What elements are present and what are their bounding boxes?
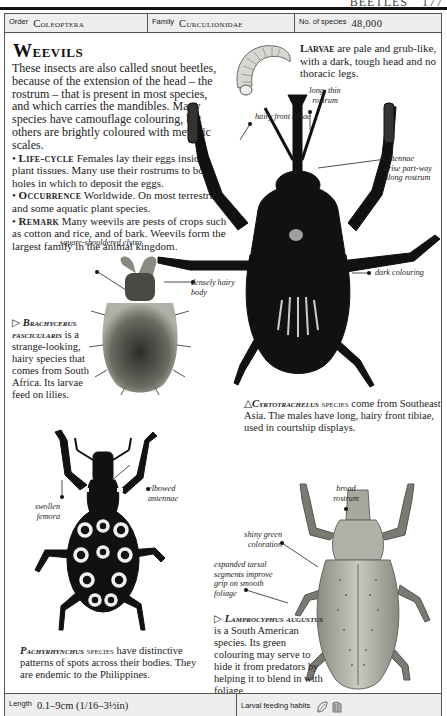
pointer-dot (344, 507, 348, 511)
larval-feeding-cell: Larval feeding habits (237, 694, 343, 716)
label-broad-rostrum: broad rostrum (330, 484, 362, 503)
species-name: Lamprocyphus augustus (225, 613, 324, 624)
lamprocyphus-caption: ▷ Lamprocyphus augustus is a South Ameri… (214, 613, 324, 697)
pointer-dot (280, 541, 284, 545)
caption-text: is a South American species. Its green c… (214, 625, 323, 696)
pachyrhynchus-caption: Pachyrhynchus species have distinctive p… (20, 645, 205, 681)
label-elbowed-antennae: elbowed antennae (148, 484, 188, 503)
label-expanded-tarsal-segments: expanded tarsal segments improve grip on… (214, 560, 274, 598)
brachycerus-caption: ▷ Brachycerus fascicularis is a strange-… (12, 317, 97, 401)
label-shiny-green-coloration: shiny green coloration (238, 530, 282, 549)
length-cell: Length 0.1–9cm (1/16–3½in) (5, 694, 237, 716)
length-value: 0.1–9cm (1/16–3½in) (37, 700, 128, 711)
leaf-icon (316, 699, 328, 711)
bottom-info-bar: Length 0.1–9cm (1/16–3½in) Larval feedin… (4, 693, 442, 716)
species-suffix: species (321, 398, 348, 409)
label-densely-hairy-body: densely hairy body (191, 278, 239, 297)
label-swollen-femora: swollen femora (28, 502, 60, 521)
pointer-dot (367, 271, 371, 275)
species-name: Pachyrhynchus (20, 645, 84, 656)
pointer-dot (60, 495, 64, 499)
species-suffix: species (87, 645, 114, 656)
bark-icon (331, 699, 343, 711)
triangle-marker: ▷ (12, 317, 20, 328)
cyrtotrachelus-caption: △Cyrtotrachelus species come from Southe… (244, 398, 444, 434)
brachycerus-illustration (85, 255, 195, 395)
label-dark-colouring: dark colouring (375, 268, 424, 278)
length-label: Length (9, 699, 32, 708)
pachyrhynchus-illustration (25, 430, 175, 630)
triangle-marker: △ (244, 398, 252, 409)
larval-feeding-label: Larval feeding habits (241, 701, 310, 710)
pointer-dot (95, 270, 99, 274)
species-name: Cyrtotrachelus (252, 398, 319, 409)
triangle-marker: ▷ (214, 613, 222, 624)
pointer-dot (244, 588, 248, 592)
label-square-shouldered-elytra: square-shouldered elytra (60, 238, 142, 248)
